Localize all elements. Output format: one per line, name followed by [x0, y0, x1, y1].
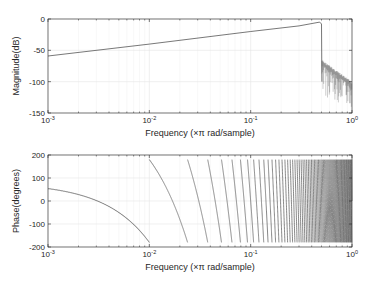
- phase-axes: 10-310-210-1100-200-1000100200 Phase(deg…: [11, 151, 358, 272]
- svg-text:100: 100: [346, 115, 358, 126]
- svg-text:10-1: 10-1: [244, 249, 258, 260]
- svg-text:-200: -200: [29, 243, 46, 252]
- phase-ylabel: Phase(degrees): [11, 169, 21, 233]
- svg-text:100: 100: [346, 249, 358, 260]
- svg-text:10-2: 10-2: [142, 115, 156, 126]
- svg-text:10-2: 10-2: [142, 249, 156, 260]
- svg-text:100: 100: [32, 174, 46, 183]
- phase-xlabel: Frequency (×π rad/sample): [145, 262, 255, 272]
- magnitude-ylabel: Magnitude(dB): [11, 36, 21, 95]
- svg-text:-150: -150: [29, 109, 46, 118]
- magnitude-axes: 10-310-210-1100-150-100-500 Magnitude(dB…: [11, 15, 358, 138]
- svg-text:-50: -50: [33, 46, 45, 55]
- svg-text:0: 0: [41, 15, 46, 24]
- svg-text:-100: -100: [29, 78, 46, 87]
- magnitude-xlabel: Frequency (×π rad/sample): [145, 128, 255, 138]
- svg-text:10-1: 10-1: [244, 115, 258, 126]
- svg-text:-100: -100: [29, 220, 46, 229]
- figure: 10-310-210-1100-150-100-500 Magnitude(dB…: [0, 0, 372, 290]
- magnitude-plot-area: [48, 19, 352, 113]
- svg-text:0: 0: [41, 197, 46, 206]
- svg-text:200: 200: [32, 151, 46, 160]
